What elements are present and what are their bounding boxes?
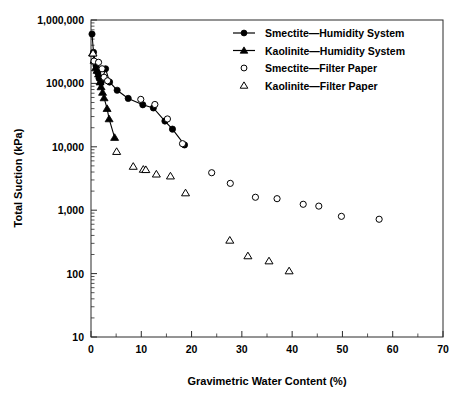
marker-open-circle — [95, 59, 101, 65]
marker-open-circle — [99, 66, 105, 72]
marker-filled-circle — [241, 30, 247, 36]
legend-item-label: Kaolinite—Humidity System — [265, 45, 405, 57]
marker-open-circle — [209, 170, 215, 176]
chart-background — [0, 0, 458, 399]
marker-filled-circle — [125, 95, 131, 101]
legend-item-label: Smectite—Filter Paper — [265, 62, 377, 74]
y-axis-tick-label: 10,000 — [52, 141, 84, 153]
marker-filled-circle — [169, 126, 175, 132]
legend-item-label: Smectite—Humidity System — [265, 27, 404, 39]
y-axis-title: Total Suction (kPa) — [12, 128, 24, 227]
y-axis-tick-label: 100 — [66, 268, 84, 280]
marker-open-circle — [164, 116, 170, 122]
marker-filled-circle — [89, 31, 95, 37]
y-axis-tick-label: 1,000,000 — [37, 14, 84, 26]
x-axis-tick-label: 40 — [286, 343, 298, 355]
y-axis-tick-label: 100,000 — [46, 77, 84, 89]
x-axis-tick-label: 60 — [387, 343, 399, 355]
marker-open-circle — [104, 78, 110, 84]
x-axis-tick-label: 0 — [88, 343, 94, 355]
marker-open-circle — [152, 101, 158, 107]
marker-open-circle — [227, 180, 233, 186]
marker-open-circle — [300, 201, 306, 207]
x-axis-tick-label: 50 — [337, 343, 349, 355]
marker-open-circle — [338, 213, 344, 219]
y-axis-tick-label: 10 — [72, 331, 84, 343]
x-axis-tick-label: 10 — [135, 343, 147, 355]
legend-item-label: Kaolinite—Filter Paper — [265, 80, 378, 92]
marker-open-circle — [179, 141, 185, 147]
marker-open-circle — [274, 196, 280, 202]
x-axis-tick-label: 70 — [437, 343, 449, 355]
y-axis-tick-label: 1,000 — [58, 204, 84, 216]
marker-open-circle — [241, 65, 247, 71]
marker-filled-circle — [114, 87, 120, 93]
marker-open-circle — [252, 194, 258, 200]
x-axis-title: Gravimetric Water Content (%) — [187, 375, 346, 387]
marker-open-circle — [376, 216, 382, 222]
chart-container: 010203040506070101001,00010,000100,0001,… — [0, 0, 458, 399]
marker-open-circle — [316, 203, 322, 209]
suction-water-content-chart: 010203040506070101001,00010,000100,0001,… — [0, 0, 458, 399]
marker-open-circle — [138, 96, 144, 102]
x-axis-tick-label: 20 — [186, 343, 198, 355]
x-axis-tick-label: 30 — [236, 343, 248, 355]
